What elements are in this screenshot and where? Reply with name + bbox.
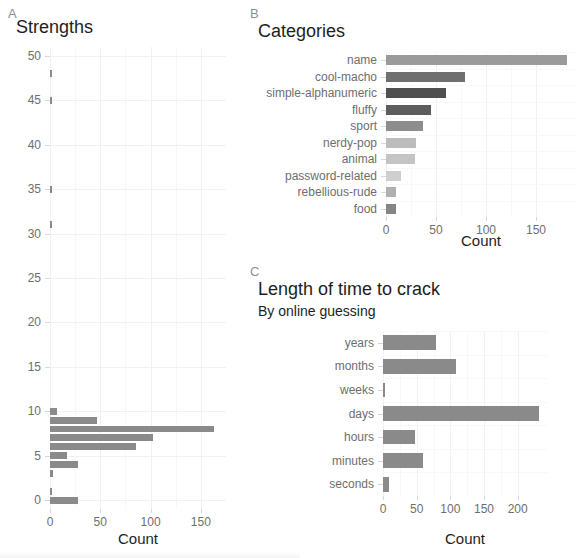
y-axis-tick-mark: [381, 126, 386, 127]
y-axis-tick-label: 0: [34, 493, 41, 507]
y-axis-category-label: nerdy-pop: [323, 136, 377, 150]
x-axis-tick-mark: [151, 509, 152, 513]
y-axis-tick-mark: [381, 143, 386, 144]
x-axis-tick-mark: [100, 509, 101, 513]
panel-a-x-axis-title: Count: [118, 530, 158, 547]
x-axis-tick-label: 0: [47, 515, 54, 529]
y-axis-tick-mark: [378, 437, 383, 438]
y-axis-category-label: seconds: [329, 477, 374, 491]
y-axis-tick-mark: [381, 209, 386, 210]
y-axis-tick-label: 5: [34, 449, 41, 463]
x-axis-tick-mark: [536, 217, 537, 221]
panel-c-x-axis-title: Count: [445, 530, 485, 547]
x-axis-tick-mark: [486, 217, 487, 221]
panel-b-categories: B Categories namecool-machosimple-alphan…: [245, 0, 584, 255]
y-axis-tick-mark: [381, 159, 386, 160]
x-axis-tick-mark: [383, 496, 384, 500]
x-axis-tick-label: 100: [141, 515, 161, 529]
y-axis-tick-mark: [378, 343, 383, 344]
x-axis-tick-label: 50: [429, 223, 442, 237]
x-axis-tick-label: 150: [474, 502, 494, 516]
panel-a-strengths: A Strengths 0510152025303540455005010015…: [0, 0, 245, 558]
y-axis-tick-label: 20: [28, 315, 41, 329]
y-axis-tick-mark: [381, 93, 386, 94]
y-axis-tick-mark: [45, 411, 50, 412]
x-axis-tick-mark: [50, 509, 51, 513]
x-axis-tick-label: 0: [380, 502, 387, 516]
x-axis-tick-label: 0: [383, 223, 390, 237]
y-axis-tick-mark: [45, 278, 50, 279]
y-axis-tick-label: 30: [28, 227, 41, 241]
y-axis-category-label: weeks: [340, 383, 374, 397]
y-axis-tick-label: 25: [28, 271, 41, 285]
panel-a-ticks: 05101520253035404550050100150: [0, 0, 245, 558]
x-axis-tick-label: 50: [94, 515, 107, 529]
y-axis-category-label: hours: [344, 430, 374, 444]
y-axis-category-label: cool-macho: [315, 70, 377, 84]
y-axis-category-label: food: [354, 202, 377, 216]
y-axis-tick-mark: [378, 390, 383, 391]
x-axis-tick-mark: [436, 217, 437, 221]
x-axis-tick-label: 200: [508, 502, 528, 516]
y-axis-category-label: animal: [342, 152, 377, 166]
y-axis-tick-mark: [378, 484, 383, 485]
y-axis-tick-mark: [45, 456, 50, 457]
y-axis-category-label: simple-alphanumeric: [266, 86, 377, 100]
x-axis-tick-label: 100: [440, 502, 460, 516]
y-axis-tick-mark: [381, 77, 386, 78]
y-axis-tick-mark: [381, 110, 386, 111]
panel-c-ticks: yearsmonthsweeksdayshoursminutesseconds0…: [245, 255, 584, 558]
y-axis-category-label: fluffy: [352, 103, 377, 117]
y-axis-tick-mark: [45, 100, 50, 101]
y-axis-category-label: rebellious-rude: [298, 185, 377, 199]
y-axis-tick-mark: [45, 367, 50, 368]
y-axis-tick-mark: [45, 322, 50, 323]
y-axis-category-label: password-related: [285, 169, 377, 183]
y-axis-tick-mark: [45, 56, 50, 57]
y-axis-tick-label: 50: [28, 49, 41, 63]
y-axis-tick-mark: [45, 189, 50, 190]
panel-b-x-axis-title: Count: [461, 232, 501, 249]
y-axis-tick-mark: [45, 234, 50, 235]
y-axis-tick-mark: [378, 414, 383, 415]
x-axis-tick-mark: [386, 217, 387, 221]
y-axis-category-label: days: [349, 407, 374, 421]
y-axis-tick-label: 15: [28, 360, 41, 374]
y-axis-tick-mark: [381, 192, 386, 193]
y-axis-category-label: sport: [350, 119, 377, 133]
x-axis-tick-label: 150: [191, 515, 211, 529]
x-axis-tick-mark: [518, 496, 519, 500]
y-axis-category-label: name: [347, 53, 377, 67]
y-axis-tick-label: 10: [28, 404, 41, 418]
page-edge-artifact: [0, 552, 300, 558]
y-axis-tick-mark: [45, 500, 50, 501]
y-axis-category-label: minutes: [332, 454, 374, 468]
y-axis-tick-label: 35: [28, 182, 41, 196]
x-axis-tick-mark: [417, 496, 418, 500]
y-axis-tick-mark: [45, 145, 50, 146]
y-axis-tick-mark: [378, 366, 383, 367]
x-axis-tick-mark: [201, 509, 202, 513]
y-axis-tick-mark: [381, 176, 386, 177]
panel-b-ticks: namecool-machosimple-alphanumericfluffys…: [245, 0, 584, 255]
y-axis-tick-label: 40: [28, 138, 41, 152]
y-axis-tick-label: 45: [28, 93, 41, 107]
x-axis-tick-label: 150: [526, 223, 546, 237]
y-axis-category-label: years: [345, 336, 374, 350]
x-axis-tick-mark: [484, 496, 485, 500]
y-axis-tick-mark: [378, 461, 383, 462]
x-axis-tick-mark: [450, 496, 451, 500]
figure-canvas: { "figure": { "background": "#ffffff", "…: [0, 0, 584, 558]
y-axis-tick-mark: [381, 60, 386, 61]
panel-c-time-to-crack: C Length of time to crack By online gues…: [245, 255, 584, 558]
x-axis-tick-label: 50: [410, 502, 423, 516]
y-axis-category-label: months: [335, 359, 374, 373]
